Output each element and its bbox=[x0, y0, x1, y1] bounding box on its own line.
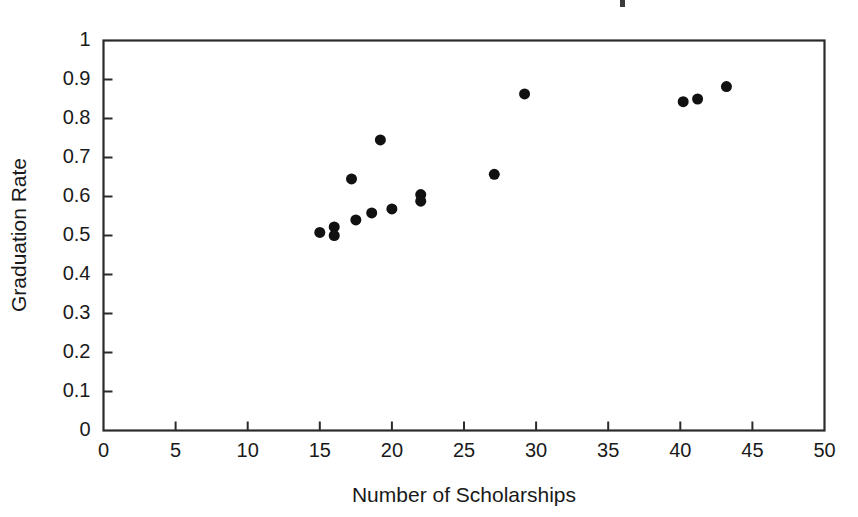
x-tick-label: 30 bbox=[525, 439, 547, 461]
scatter-point bbox=[366, 207, 377, 218]
y-tick-label: 0.3 bbox=[63, 301, 91, 323]
x-tick-label: 10 bbox=[237, 439, 259, 461]
x-tick-label: 5 bbox=[170, 439, 181, 461]
scatter-point bbox=[375, 134, 386, 145]
scatter-point bbox=[519, 88, 530, 99]
y-tick-label: 0.9 bbox=[63, 67, 91, 89]
y-tick-label: 0.8 bbox=[63, 106, 91, 128]
scatter-point bbox=[692, 94, 703, 105]
y-axis-title: Graduation Rate bbox=[7, 158, 30, 312]
x-tick-label: 40 bbox=[669, 439, 691, 461]
y-tick-label: 0.1 bbox=[63, 379, 91, 401]
scatter-point bbox=[386, 203, 397, 214]
scatter-point bbox=[329, 230, 340, 241]
scatter-point bbox=[346, 173, 357, 184]
y-tick-label: 0.5 bbox=[63, 223, 91, 245]
cropped-title-remnant bbox=[620, 0, 625, 7]
scatter-point bbox=[721, 81, 732, 92]
scatter-point bbox=[415, 196, 426, 207]
x-tick-label: 35 bbox=[597, 439, 619, 461]
scatter-point bbox=[678, 96, 689, 107]
y-tick-label: 1 bbox=[79, 28, 90, 50]
x-tick-label: 15 bbox=[309, 439, 331, 461]
x-tick-label: 45 bbox=[741, 439, 763, 461]
x-axis-title: Number of Scholarships bbox=[352, 483, 576, 506]
scatter-point bbox=[314, 227, 325, 238]
scatter-point bbox=[489, 169, 500, 180]
y-tick-label: 0 bbox=[79, 418, 90, 440]
x-tick-label: 25 bbox=[453, 439, 475, 461]
chart-canvas: 05101520253035404550 00.10.20.30.40.50.6… bbox=[0, 0, 858, 517]
y-tick-label: 0.2 bbox=[63, 340, 91, 362]
scatter-point bbox=[350, 214, 361, 225]
y-tick-label: 0.6 bbox=[63, 184, 91, 206]
x-tick-label: 0 bbox=[98, 439, 109, 461]
x-tick-label: 20 bbox=[381, 439, 403, 461]
figure-background bbox=[0, 0, 858, 517]
y-tick-label: 0.7 bbox=[63, 145, 91, 167]
scatter-plot-figure: 05101520253035404550 00.10.20.30.40.50.6… bbox=[0, 0, 858, 517]
y-tick-label: 0.4 bbox=[63, 262, 91, 284]
x-tick-label: 50 bbox=[813, 439, 835, 461]
